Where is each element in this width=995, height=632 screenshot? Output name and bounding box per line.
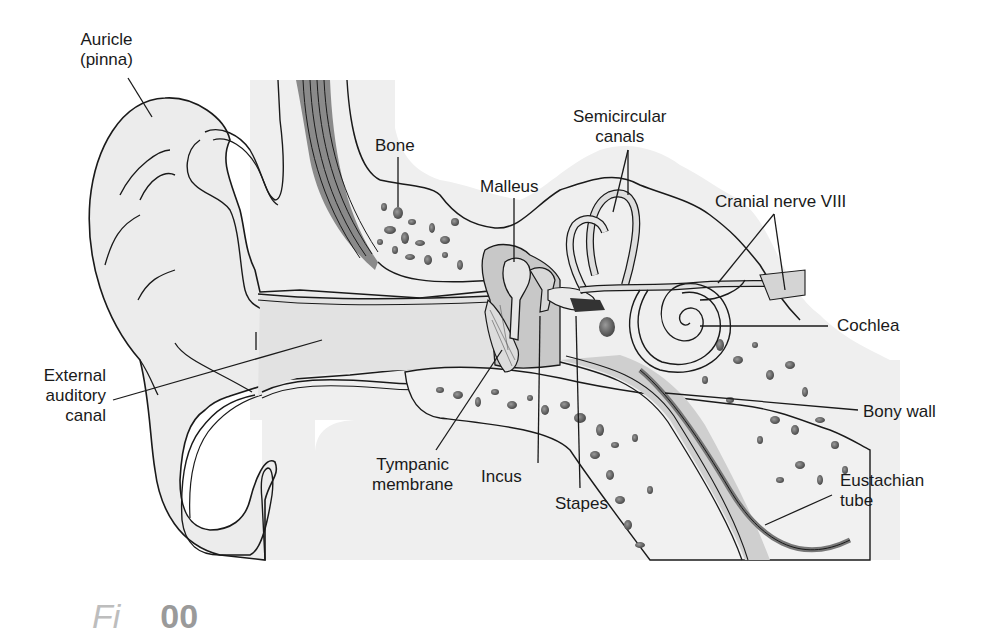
caption-number: 00 xyxy=(160,597,198,632)
label-external-line3: canal xyxy=(26,406,106,426)
label-semicircular-line2: canals xyxy=(573,127,667,147)
label-tympanic-membrane: Tympanic membrane xyxy=(372,455,453,495)
label-bone: Bone xyxy=(375,136,415,156)
label-tympanic-line1: Tympanic xyxy=(372,455,453,475)
label-tympanic-line2: membrane xyxy=(372,475,453,495)
caption-text: Fi xyxy=(92,597,120,632)
label-auricle: Auricle (pinna) xyxy=(80,30,133,70)
label-stapes: Stapes xyxy=(555,494,608,514)
label-semicircular-canals: Semicircular canals xyxy=(573,107,667,147)
label-auricle-line2: (pinna) xyxy=(80,50,133,70)
label-external-line2: auditory xyxy=(26,386,106,406)
label-eustachian-line2: tube xyxy=(840,491,924,511)
label-malleus: Malleus xyxy=(480,177,539,197)
label-eustachian-line1: Eustachian xyxy=(840,471,924,491)
label-external-line1: External xyxy=(26,366,106,386)
label-external-auditory-canal: External auditory canal xyxy=(26,366,106,426)
label-cranial-nerve-viii: Cranial nerve VIII xyxy=(715,192,846,212)
label-auricle-line1: Auricle xyxy=(80,30,133,50)
label-semicircular-line1: Semicircular xyxy=(573,107,667,127)
label-incus: Incus xyxy=(481,467,522,487)
label-bony-wall: Bony wall xyxy=(863,402,936,422)
figure-caption-fragment: Fi00 xyxy=(92,601,198,631)
label-eustachian-tube: Eustachian tube xyxy=(840,471,924,511)
label-cochlea: Cochlea xyxy=(837,316,899,336)
